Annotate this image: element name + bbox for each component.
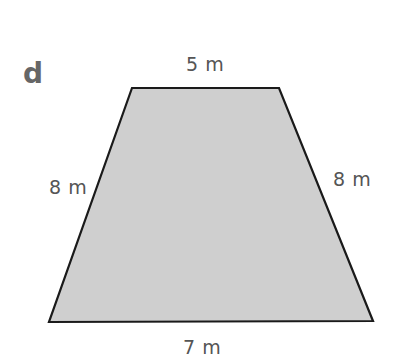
trapezium-figure: d 5 m 8 m 8 m 7 m: [0, 0, 400, 358]
left-side-label: 8 m: [49, 178, 87, 197]
top-side-label: 5 m: [186, 55, 224, 74]
bottom-side-label: 7 m: [183, 338, 221, 357]
right-side-label: 8 m: [333, 170, 371, 189]
part-label: d: [23, 60, 43, 88]
trapezium-polygon: [49, 88, 373, 322]
